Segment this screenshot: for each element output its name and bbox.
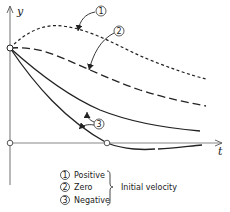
callout-1: 1 (78, 6, 106, 31)
callout-2-number: 2 (116, 27, 121, 36)
callout-3-arrow-upper (87, 112, 94, 122)
diagram-svg: y t 1 2 3 (0, 0, 230, 212)
callout-3-number: 3 (96, 120, 101, 129)
diagram-canvas: y t 1 2 3 (0, 0, 230, 212)
legend-item-3-text: Negative (74, 196, 110, 205)
legend-item-1-marker: 1 (62, 171, 67, 180)
legend-item-2-marker: 2 (62, 183, 67, 192)
callout-1-arrow (78, 12, 95, 31)
t-axis-label: t (218, 145, 223, 158)
legend-item-2: 2 Zero (61, 183, 93, 193)
legend-item-3: 3 Negative (61, 196, 110, 206)
legend: 1 Positive 2 Zero 3 Negative Initial vel… (61, 171, 178, 206)
legend-item-3-marker: 3 (62, 196, 67, 205)
y-axis-label: y (16, 5, 24, 18)
callout-3: 3 (79, 112, 104, 129)
curve-3-negative-lower-tail (158, 145, 202, 149)
legend-group-label: Initial velocity (121, 183, 177, 192)
callout-2: 2 (89, 26, 124, 70)
legend-item-2-text: Zero (74, 183, 93, 192)
callout-2-arrow (89, 33, 114, 70)
curve-1-positive (10, 26, 206, 79)
legend-item-1-text: Positive (74, 171, 105, 180)
crossing-marker (104, 140, 110, 146)
curve-3-negative-lower (10, 48, 155, 149)
curve-2-zero (10, 48, 206, 106)
legend-item-1: 1 Positive (61, 171, 105, 181)
callout-1-number: 1 (98, 7, 103, 16)
curve-3-negative-upper (10, 48, 200, 131)
origin-marker (7, 140, 13, 146)
initial-point-marker (7, 45, 13, 51)
callout-3-arrow-lower (79, 125, 94, 129)
